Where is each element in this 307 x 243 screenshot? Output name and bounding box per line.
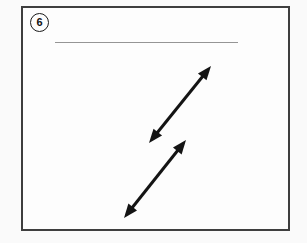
upper-double-arrow-shaft [153,71,206,137]
figure-page: 6 [0,0,307,243]
figure-canvas-svg [0,0,307,243]
figure-number: 6 [36,17,42,28]
lower-double-arrow-shaft [128,145,181,212]
figure-number-badge: 6 [30,13,49,32]
